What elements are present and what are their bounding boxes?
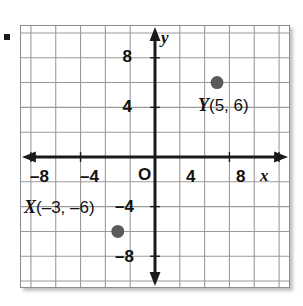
square-bullet-icon xyxy=(4,34,10,40)
plot-frame xyxy=(20,25,290,288)
data-point-X xyxy=(111,225,124,238)
coordinate-plane-figure: 8 4 –4 –8 –8 –4 4 8 O y x Y(5, 6) X(–3, … xyxy=(0,0,303,306)
grid-and-axes-canvas xyxy=(21,26,289,287)
axis-lines xyxy=(27,32,283,281)
data-point-Y xyxy=(211,76,224,89)
